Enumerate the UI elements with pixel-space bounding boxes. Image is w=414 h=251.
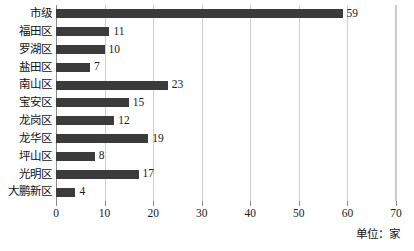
bar-row: 19 — [56, 130, 396, 148]
category-axis: 市级福田区罗湖区盐田区南山区宝安区龙岗区龙华区坪山区光明区大鹏新区 — [0, 5, 54, 201]
tick-mark-20 — [153, 201, 154, 206]
tick-mark-0 — [56, 201, 57, 206]
bar: 12 — [56, 116, 114, 125]
bar-value-label: 7 — [94, 62, 100, 74]
tick-mark-70 — [396, 201, 397, 206]
tick-label-20: 20 — [147, 208, 159, 220]
bar: 19 — [56, 134, 148, 143]
bar-value-label: 11 — [113, 26, 124, 38]
bar-row: 10 — [56, 41, 396, 59]
tick-label-50: 50 — [293, 208, 305, 220]
tick-label-70: 70 — [390, 208, 402, 220]
category-label: 罗湖区 — [19, 41, 52, 59]
bar-series: 5911107231512198174 — [56, 5, 396, 201]
bar-value-label: 8 — [99, 151, 105, 163]
tick-mark-30 — [202, 201, 203, 206]
gridline-70 — [396, 5, 397, 201]
tick-mark-40 — [250, 201, 251, 206]
bar-row: 7 — [56, 58, 396, 76]
category-label: 坪山区 — [19, 148, 52, 166]
unit-note: 单位：家 — [356, 229, 400, 241]
bar: 23 — [56, 81, 168, 90]
category-label: 大鹏新区 — [8, 183, 52, 201]
category-label: 光明区 — [19, 165, 52, 183]
bar: 11 — [56, 27, 109, 36]
bar: 8 — [56, 152, 95, 161]
bar: 15 — [56, 98, 129, 107]
tick-label-30: 30 — [196, 208, 208, 220]
tick-label-60: 60 — [342, 208, 354, 220]
bar-row: 4 — [56, 183, 396, 201]
bar-row: 12 — [56, 112, 396, 130]
category-label: 龙岗区 — [19, 112, 52, 130]
bar: 4 — [56, 188, 75, 197]
tick-label-0: 0 — [53, 208, 59, 220]
bar-row: 11 — [56, 23, 396, 41]
tick-mark-10 — [105, 201, 106, 206]
tick-label-10: 10 — [99, 208, 111, 220]
tick-mark-60 — [347, 201, 348, 206]
category-label: 市级 — [30, 5, 52, 23]
bar: 59 — [56, 9, 343, 18]
category-label: 盐田区 — [19, 58, 52, 76]
bar-row: 23 — [56, 76, 396, 94]
bar-value-label: 10 — [109, 44, 121, 56]
bar-row: 15 — [56, 94, 396, 112]
bar-value-label: 23 — [172, 79, 184, 91]
bar-chart: 市级福田区罗湖区盐田区南山区宝安区龙岗区龙华区坪山区光明区大鹏新区 591110… — [0, 0, 414, 251]
bar: 17 — [56, 170, 139, 179]
x-axis-tick-labels: 010203040506070 — [56, 208, 396, 224]
bar-value-label: 17 — [143, 169, 155, 181]
plot-area: 5911107231512198174 — [56, 5, 396, 201]
bar-value-label: 4 — [79, 186, 85, 198]
bar-value-label: 12 — [118, 115, 130, 127]
bar-row: 17 — [56, 165, 396, 183]
category-label: 福田区 — [19, 23, 52, 41]
bar-value-label: 19 — [152, 133, 164, 145]
bar: 10 — [56, 45, 105, 54]
bar-value-label: 59 — [347, 8, 359, 20]
bar: 7 — [56, 63, 90, 72]
bar-row: 59 — [56, 5, 396, 23]
tick-label-40: 40 — [245, 208, 257, 220]
category-label: 南山区 — [19, 76, 52, 94]
bar-value-label: 15 — [133, 97, 145, 109]
category-label: 龙华区 — [19, 130, 52, 148]
tick-mark-50 — [299, 201, 300, 206]
category-label: 宝安区 — [19, 94, 52, 112]
bar-row: 8 — [56, 148, 396, 166]
